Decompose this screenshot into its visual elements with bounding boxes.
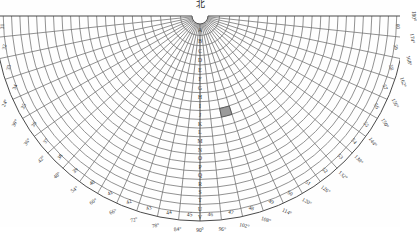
ring-label: M — [198, 138, 203, 144]
rim-number: 59 — [393, 44, 400, 50]
grid-ray — [98, 23, 197, 194]
grid-ray — [5, 18, 192, 79]
ring-label: E — [198, 67, 201, 73]
degree-tick-label: 180° — [411, 11, 417, 21]
rim-number: 45 — [187, 211, 193, 217]
rim-number: 47 — [228, 209, 234, 216]
ring-label: S — [198, 189, 201, 195]
ring-label: P — [198, 164, 201, 170]
ring-label: G — [198, 85, 202, 91]
ring-label: O — [198, 155, 202, 161]
ring-label: Q — [198, 172, 202, 178]
degree-tick-label: 84° — [174, 225, 182, 232]
ring-label: D — [198, 57, 202, 63]
rim-number: 31 — [0, 24, 5, 30]
ring-label: B — [198, 38, 202, 44]
highlighted-seat-cell[interactable] — [220, 106, 232, 117]
grid-ray — [22, 20, 193, 119]
grid-ray — [179, 24, 200, 220]
ring-label: V — [198, 214, 202, 220]
grid-ray — [208, 18, 400, 59]
rim-number: 60 — [395, 24, 401, 30]
grid-arc — [192, 16, 208, 24]
ring-label: F — [198, 76, 201, 82]
degree-tick-label: 162° — [399, 76, 408, 88]
grid-ray — [137, 24, 198, 211]
rim-number: 44 — [166, 209, 172, 216]
grid-ray — [201, 24, 222, 220]
ring-label: U — [198, 206, 202, 212]
degree-tick-label: 174° — [409, 33, 416, 44]
ring-label: J — [199, 112, 201, 118]
ring-label: H — [198, 94, 202, 100]
ring-label: T — [198, 197, 201, 203]
ring-label: C — [198, 48, 202, 54]
degree-tick-label: 168° — [405, 55, 413, 66]
grid-ray — [208, 18, 395, 79]
degree-tick-label: 96° — [218, 225, 226, 232]
ring-label: R — [198, 181, 202, 187]
degree-tick-label: 90° — [196, 227, 204, 233]
rim-number: 46 — [208, 211, 214, 217]
ring-label: I — [199, 103, 201, 109]
rim-number: 32 — [1, 44, 8, 50]
degree-tick-label: 102° — [239, 221, 250, 229]
grid-ray — [0, 18, 192, 59]
ring-label: N — [198, 147, 202, 153]
ring-label: L — [198, 129, 201, 135]
ring-label: K — [198, 121, 202, 127]
degree-tick-label: 78° — [151, 222, 160, 229]
highlight-cell[interactable] — [220, 106, 232, 117]
ring-label: A — [198, 27, 202, 33]
grid-ray — [202, 24, 263, 211]
grid-ray — [204, 23, 303, 194]
grid-ray — [207, 20, 378, 119]
